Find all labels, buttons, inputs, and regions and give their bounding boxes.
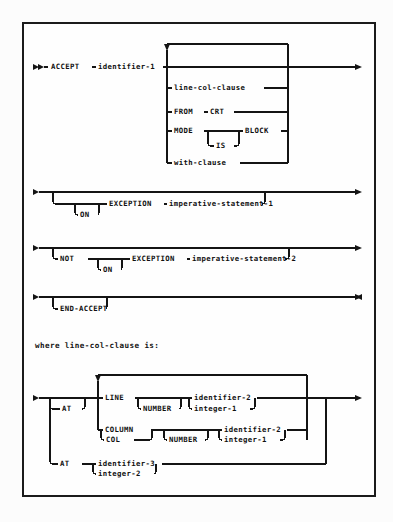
exit-arrow-icon	[355, 64, 362, 70]
terminal-line: LINE	[105, 393, 124, 402]
track2-entry-arrow-icon	[33, 189, 39, 195]
entry-arrow-icon-2	[38, 64, 44, 70]
nonterminal-integer-1a: integer-1	[194, 404, 237, 413]
terminal-not: NOT	[60, 254, 74, 263]
terminal-at-1: AT	[62, 404, 72, 413]
nonterminal-identifier-2a: identifier-2	[194, 393, 251, 402]
repeat-loop-arrow-icon	[164, 44, 170, 51]
nonterminal-line-col-clause: line-col-clause	[174, 83, 245, 92]
terminal-from: FROM	[174, 107, 193, 116]
lc-entry-arrow-icon	[33, 395, 39, 401]
terminal-accept: ACCEPT	[51, 62, 80, 71]
nonterminal-identifier-2b: identifier-2	[224, 425, 281, 434]
terminal-end-accept: END-ACCEPT	[60, 304, 108, 313]
group-not-on-exception: NOT ON EXCEPTION imperative-statement-2	[33, 245, 362, 276]
track3-entry-arrow-icon	[33, 245, 39, 251]
terminal-exception-1: EXCEPTION	[109, 199, 152, 208]
group-line-col-clause: AT LINE NUMBER identifier-2 integer-1 CO…	[33, 375, 362, 481]
track3-exit-arrow-icon	[355, 245, 362, 251]
terminal-crt: CRT	[210, 107, 224, 116]
group-accept-main: ACCEPT identifier-1 line-col-clause FROM…	[33, 44, 362, 170]
terminal-on-2: ON	[103, 265, 113, 274]
group-end-accept: END-ACCEPT	[33, 294, 362, 316]
railroad-diagram: ACCEPT identifier-1 line-col-clause FROM…	[0, 0, 393, 522]
terminal-at-2: AT	[60, 459, 70, 468]
nonterminal-integer-1b: integer-1	[224, 435, 267, 444]
terminal-number-2: NUMBER	[169, 435, 198, 444]
lc-exit-arrow-icon	[355, 395, 362, 401]
nonterminal-imperative-statement-2: imperative-statement-2	[192, 254, 296, 263]
lc-repeat-arrow-icon	[95, 375, 101, 382]
terminal-column: COLUMN	[105, 425, 133, 434]
page-canvas: ACCEPT identifier-1 line-col-clause FROM…	[0, 0, 393, 522]
nonterminal-imperative-statement-1: imperative-statement-1	[169, 199, 274, 208]
terminal-number-1: NUMBER	[143, 404, 172, 413]
terminal-col: COL	[106, 435, 120, 444]
nonterminal-with-clause: with-clause	[174, 158, 226, 167]
nonterminal-identifier-3: identifier-3	[98, 459, 155, 468]
group-on-exception: ON EXCEPTION imperative-statement-1	[33, 189, 362, 221]
track4-entry-arrow-icon	[33, 294, 39, 300]
terminal-on-1: ON	[80, 210, 90, 219]
nonterminal-identifier-1: identifier-1	[98, 62, 155, 71]
nonterminal-integer-2: integer-2	[98, 469, 141, 478]
track2-exit-arrow-icon	[355, 189, 362, 195]
terminal-is: IS	[216, 141, 226, 150]
terminal-mode: MODE	[174, 126, 193, 135]
terminal-block: BLOCK	[245, 126, 269, 135]
terminal-exception-2: EXCEPTION	[132, 254, 175, 263]
caption-where-line-col-clause: where line-col-clause is:	[35, 341, 159, 350]
